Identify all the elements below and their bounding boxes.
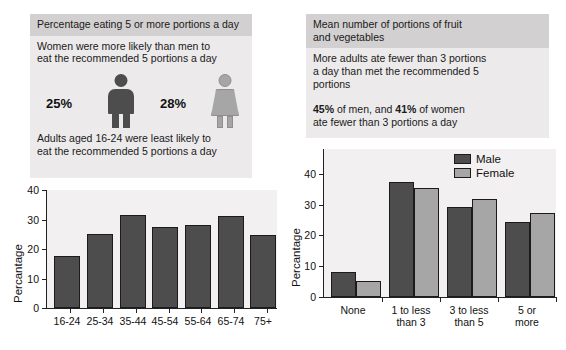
x-tick bbox=[556, 297, 557, 302]
y-tick-label: 10 bbox=[287, 260, 316, 272]
left-info-footer-1: Adults aged 16-24 were least likely to bbox=[37, 132, 245, 145]
right-panel: Mean number of portions of fruit and veg… bbox=[283, 0, 566, 350]
x-label-75-plus: 75+ bbox=[244, 316, 282, 328]
male-leg-left bbox=[112, 112, 119, 128]
x-label-none-line-1: None bbox=[324, 305, 382, 317]
y-tick bbox=[42, 190, 46, 191]
x-label-5-or-more: 5 or more bbox=[498, 305, 556, 328]
bar-none-female bbox=[356, 281, 381, 297]
x-tick bbox=[498, 297, 499, 302]
x-tick bbox=[382, 297, 383, 302]
male-figure-icon bbox=[106, 74, 136, 128]
left-info-footer: Adults aged 16-24 were least likely to e… bbox=[30, 132, 252, 163]
bar-none-male bbox=[331, 272, 356, 297]
bar-65-74 bbox=[218, 216, 244, 308]
legend-row-male: Male bbox=[454, 153, 514, 165]
y-tick-label: 40 bbox=[10, 184, 39, 196]
x-tick bbox=[201, 308, 202, 313]
bar-35-44 bbox=[120, 215, 146, 308]
legend-label-male: Male bbox=[476, 153, 501, 165]
left-info-line-1: Women were more likely than men to bbox=[37, 40, 245, 53]
right-info-heading-line-1: Mean number of portions of fruit bbox=[313, 18, 542, 31]
y-tick bbox=[319, 297, 323, 298]
bar-1-to-less-than-3-male bbox=[389, 182, 414, 297]
right-info-line-3: portions bbox=[313, 78, 542, 91]
y-tick-label: 0 bbox=[287, 291, 316, 303]
figures-row: 25% 28% bbox=[30, 70, 252, 132]
left-info-heading: Percentage eating 5 or more portions a d… bbox=[37, 18, 245, 31]
x-tick bbox=[136, 308, 137, 313]
bar-75-plus bbox=[250, 235, 276, 308]
legend-swatch-male bbox=[454, 154, 471, 164]
y-tick bbox=[319, 174, 323, 175]
left-info-line-2: eat the recommended 5 portions a day bbox=[37, 52, 245, 65]
right-info-stats: 45% of men, and 41% of women ate fewer t… bbox=[306, 95, 549, 134]
x-label-5-line-1: 5 or bbox=[498, 305, 556, 317]
x-label-3-to-less-than-5: 3 to less than 5 bbox=[440, 305, 498, 328]
right-info-body: More adults ate fewer than 3 portions a … bbox=[306, 48, 549, 95]
x-label-none: None bbox=[324, 305, 382, 317]
male-torso bbox=[108, 89, 134, 114]
women-percentage: 41% bbox=[395, 103, 416, 115]
left-info-footer-2: eat the recommended 5 portions a day bbox=[37, 145, 245, 158]
x-tick bbox=[103, 308, 104, 313]
y-tick bbox=[42, 220, 46, 221]
x-tick bbox=[169, 308, 170, 313]
female-figure-icon bbox=[210, 74, 240, 128]
y-tick-label: 30 bbox=[10, 214, 39, 226]
y-tick bbox=[319, 235, 323, 236]
male-percentage-label: 25% bbox=[46, 96, 72, 111]
right-info-stat-line-2: ate fewer than 3 portions a day bbox=[313, 116, 542, 129]
y-tick bbox=[42, 249, 46, 250]
bar-5-or-more-male bbox=[505, 222, 530, 297]
y-tick-label: 10 bbox=[10, 273, 39, 285]
x-tick bbox=[267, 308, 268, 313]
men-percentage: 45% bbox=[313, 103, 334, 115]
right-info-heading-band: Mean number of portions of fruit and veg… bbox=[306, 14, 549, 48]
y-tick bbox=[42, 279, 46, 280]
male-head bbox=[115, 74, 128, 87]
bar-3-to-less-than-5-female bbox=[472, 199, 497, 297]
y-tick-label: 0 bbox=[10, 302, 39, 314]
x-label-1-to-less-than-3: 1 to less than 3 bbox=[382, 305, 440, 328]
age-group-x-axis bbox=[46, 308, 277, 309]
x-label-5-line-2: more bbox=[498, 317, 556, 329]
x-label-3-line-1: 3 to less bbox=[440, 305, 498, 317]
female-leg-left bbox=[217, 116, 223, 128]
right-info-box: Mean number of portions of fruit and veg… bbox=[306, 14, 549, 138]
bar-5-or-more-female bbox=[530, 213, 555, 297]
female-head bbox=[219, 74, 232, 87]
bar-55-64 bbox=[185, 225, 211, 308]
y-tick-label: 30 bbox=[287, 199, 316, 211]
bar-16-24 bbox=[54, 256, 80, 308]
male-leg-right bbox=[123, 112, 130, 128]
x-tick bbox=[440, 297, 441, 302]
left-panel: Percentage eating 5 or more portions a d… bbox=[0, 0, 283, 350]
right-info-stat-line: 45% of men, and 41% of women bbox=[313, 103, 542, 116]
x-label-1-line-2: than 3 bbox=[382, 317, 440, 329]
left-info-heading-band: Percentage eating 5 or more portions a d… bbox=[30, 14, 252, 36]
x-tick bbox=[70, 308, 71, 313]
bar-3-to-less-than-5-male bbox=[447, 207, 472, 297]
left-info-body: Women were more likely than men to eat t… bbox=[30, 36, 252, 71]
x-label-3-line-2: than 5 bbox=[440, 317, 498, 329]
stat-mid-text: of men, and bbox=[334, 103, 395, 115]
portions-y-axis bbox=[323, 149, 324, 297]
legend-swatch-female bbox=[454, 168, 471, 178]
female-percentage-label: 28% bbox=[160, 96, 186, 111]
left-info-box: Percentage eating 5 or more portions a d… bbox=[30, 14, 252, 178]
y-tick bbox=[42, 308, 46, 309]
right-info-line-2: a day than met the recommended 5 bbox=[313, 65, 542, 78]
y-tick bbox=[319, 266, 323, 267]
age-group-y-axis bbox=[46, 190, 47, 308]
age-group-chart: Percantage 0 10 20 30 40 16-24 25-34 35-… bbox=[0, 185, 283, 350]
y-tick-label: 20 bbox=[10, 243, 39, 255]
stat-post-text: of women bbox=[416, 103, 464, 115]
y-tick-label: 20 bbox=[287, 229, 316, 241]
x-tick bbox=[234, 308, 235, 313]
x-label-1-line-1: 1 to less bbox=[382, 305, 440, 317]
y-tick bbox=[319, 205, 323, 206]
bar-1-to-less-than-3-female bbox=[414, 188, 439, 297]
female-leg-right bbox=[227, 116, 233, 128]
right-info-heading-line-2: and vegetables bbox=[313, 31, 542, 44]
